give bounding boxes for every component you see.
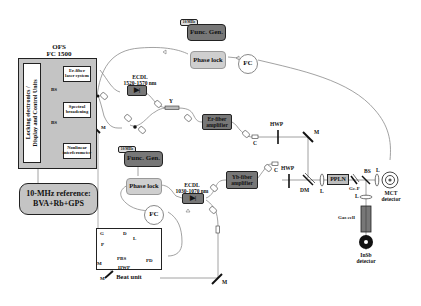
lens2-label: L <box>376 168 380 174</box>
reference-line2: BVA+Rb+GPS <box>26 199 90 209</box>
ppln-crystal: PPLN <box>327 174 349 185</box>
upper-func-gen: Func. Gen. <box>187 24 226 41</box>
beat-pbs-label: PBS <box>117 256 126 261</box>
beat-p-label: P <box>101 242 104 247</box>
lower-hwp-label: HWP <box>281 166 294 172</box>
y-coupler-label: Y <box>169 99 173 105</box>
upper-mirror-label: M <box>314 130 319 136</box>
nonlinear-interferometer-module: Nonlinear interferometer <box>63 143 91 159</box>
beat-m2-label: M <box>100 276 105 281</box>
beat-m1-label: M <box>97 261 102 266</box>
lower-fc: FC <box>144 205 164 225</box>
ofs-mirror-label: M <box>101 125 106 130</box>
upper-collimator-label: C <box>253 141 257 147</box>
gas-cell-label: Gas cell <box>338 215 355 220</box>
beat-g-label: G <box>100 231 104 236</box>
mirror-bottom <box>212 274 222 284</box>
laser-diode-icon: ▶| <box>190 194 197 202</box>
ofs-title: OFS FC 1500 <box>44 44 74 59</box>
y-coupler <box>165 106 179 110</box>
lower-collimator-label: C <box>274 168 278 174</box>
er-fiber-amplifier: Er-fiber amplifier <box>202 114 232 130</box>
beat-l-label: L <box>133 236 136 241</box>
ofs-side-line1: Locking electronics / <box>25 87 31 140</box>
ofs-bs-label-2: BS <box>51 120 57 125</box>
mct-detector-label: MCT detector <box>378 190 404 202</box>
laser-diode-icon: ▶| <box>134 86 141 94</box>
lower-phase-lock: Phase lock <box>126 178 162 195</box>
dm-label: DM <box>300 188 309 194</box>
beat-d-label: D <box>123 231 127 236</box>
upper-fc: FC <box>238 54 258 74</box>
upper-phase-lock: Phase lock <box>190 51 226 69</box>
upper-ecdl-laser: ▶| <box>127 85 147 96</box>
ofs-bs-label-1: BS <box>51 87 57 92</box>
bottom-mirror-label: M <box>222 280 227 286</box>
lower-ecdl-laser: ▶| <box>182 193 204 204</box>
ge-filter-label: Ge-F <box>349 186 360 191</box>
beat-unit-frame <box>96 228 162 270</box>
er-fiber-laser-module: Er-fiber laser system <box>63 66 91 82</box>
collimator-upper <box>252 135 258 139</box>
beat-unit-title: Beat unit <box>106 274 152 281</box>
bs-label: BS <box>364 169 371 175</box>
spectral-broadening-module: Spectral broadening <box>63 102 91 118</box>
ofs-control-panel: Locking electronics / Display and Contro… <box>23 63 41 163</box>
lower-func-gen: Func. Gen. <box>124 151 163 167</box>
insb-detector-label: InSb detector <box>354 252 378 264</box>
yb-fiber-amplifier: Yb-fiber amplifier <box>226 171 258 189</box>
beat-hwp-label: HWP <box>118 265 130 270</box>
reference-box: 10-MHz reference: BVA+Rb+GPS <box>19 183 98 215</box>
ofs-side-line2: Display and Control Units <box>32 79 38 146</box>
lens1-label: L <box>320 189 324 195</box>
lens3-label: L <box>355 194 359 200</box>
collimator-lower <box>272 162 278 166</box>
beat-pd-label: PD <box>146 258 153 263</box>
fiber-fc-to-mct <box>258 60 390 160</box>
reference-line1: 10-MHz reference: <box>26 189 90 199</box>
upper-hwp-label: HWP <box>270 122 283 128</box>
